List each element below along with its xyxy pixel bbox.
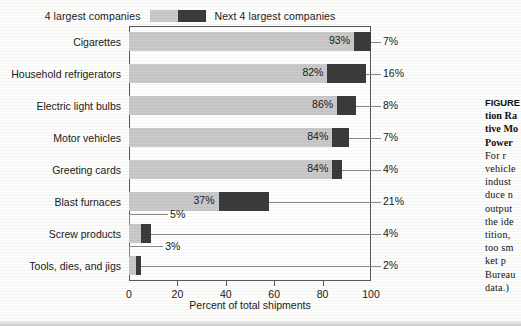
leader-line: [371, 42, 381, 43]
caption-body-line: duce n: [485, 188, 521, 201]
outside-value-label: 4%: [383, 227, 398, 239]
figure-page: 4 largest companies Next 4 largest compa…: [0, 0, 521, 326]
caption-body-line: too sm: [485, 241, 521, 254]
outside-value-label: 4%: [383, 163, 398, 175]
outside-value-label: 16%: [383, 67, 404, 79]
leader-line: [141, 266, 381, 267]
leader-line: [342, 170, 381, 171]
x-axis-tick: [274, 281, 275, 286]
y-axis-category-label: Electric light bulbs: [36, 90, 121, 122]
caption-body-line: ket p: [485, 254, 521, 267]
caption-heading-line: tion Ra: [485, 109, 521, 122]
leader-line: [356, 106, 381, 107]
caption-body-line: vehicle: [485, 162, 521, 175]
outside-value-label: 7%: [383, 131, 398, 143]
caption-heading-line: Power: [485, 136, 521, 149]
x-axis-tick: [323, 281, 324, 286]
caption-body-line: output: [485, 202, 521, 215]
page-bottom-edge: [0, 320, 521, 326]
leader-line: [151, 234, 381, 235]
outside-value-label: 21%: [383, 195, 404, 207]
legend-label-left: 4 largest companies: [45, 10, 141, 22]
y-axis-category-label: Blast furnaces: [54, 186, 121, 218]
caption-body-line: the ide: [485, 215, 521, 228]
y-axis-category-label: Cigarettes: [73, 26, 121, 58]
caption-body-line: tition,: [485, 228, 521, 241]
outside-value-label: 2%: [383, 259, 398, 271]
legend-swatch-light: [150, 10, 178, 22]
x-axis-title: Percent of total shipments: [129, 299, 371, 311]
leader-lines-and-outside-labels: 7%16%8%7%4%21%4%2%: [129, 26, 409, 281]
outside-value-label: 8%: [383, 99, 398, 111]
legend-swatches: [150, 10, 206, 22]
x-axis-tick: [226, 281, 227, 286]
caption-heading-line: FIGURE: [485, 96, 521, 109]
y-axis-category-labels: CigarettesHousehold refrigeratorsElectri…: [0, 26, 125, 281]
chart-legend: 4 largest companies Next 4 largest compa…: [0, 6, 380, 26]
caption-heading-line: tive Mo: [485, 122, 521, 135]
y-axis-category-label: Greeting cards: [52, 154, 121, 186]
outside-value-label: 7%: [383, 35, 398, 47]
caption-body-line: data.): [485, 281, 521, 294]
figure-caption: FIGUREtion Rative MoPowerFor rvehicleind…: [485, 96, 521, 294]
x-axis: 020406080100: [129, 281, 371, 282]
caption-body-line: indust: [485, 175, 521, 188]
y-axis-category-label: Tools, dies, and jigs: [29, 250, 121, 282]
leader-line: [269, 202, 381, 203]
legend-swatch-dark: [178, 10, 206, 22]
caption-body-line: For r: [485, 149, 521, 162]
caption-body-line: Bureau: [485, 268, 521, 281]
y-axis-category-label: Screw products: [49, 218, 121, 250]
leader-line: [366, 74, 381, 75]
y-axis-category-label: Household refrigerators: [11, 58, 121, 90]
y-axis-category-label: Motor vehicles: [53, 122, 121, 154]
x-axis-tick: [177, 281, 178, 286]
legend-label-right: Next 4 largest companies: [215, 10, 336, 22]
leader-line: [349, 138, 381, 139]
